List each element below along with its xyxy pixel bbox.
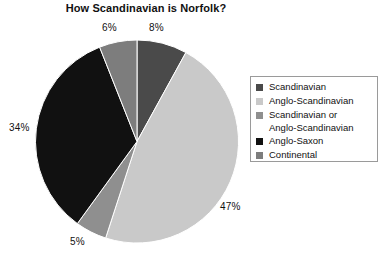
pie-slices: [35, 40, 238, 243]
chart-legend: Scandinavian Anglo-Scandinavian Scandina…: [250, 76, 378, 162]
legend-item-label: Scandinavian or Anglo-Scandinavian: [269, 109, 354, 134]
legend-item-label: Scandinavian: [269, 81, 326, 94]
legend-item-scandinavian-or-anglo-scandinavian[interactable]: Scandinavian or Anglo-Scandinavian: [256, 109, 374, 134]
legend-item-continental[interactable]: Continental: [256, 149, 374, 162]
legend-swatch-icon: [256, 152, 263, 159]
pie-svg: [35, 39, 239, 244]
slice-value-label-scandinavian-or-anglo-scandinavian: 5%: [70, 236, 85, 247]
pie-chart-figure: How Scandinavian is Norfolk? 6% 8% 34% 4…: [0, 0, 384, 257]
legend-swatch-icon: [256, 112, 263, 119]
chart-title: How Scandinavian is Norfolk?: [0, 2, 292, 14]
legend-swatch-icon: [256, 138, 263, 145]
slice-value-label-anglo-scandinavian: 47%: [220, 201, 241, 212]
pie-plot-area: [35, 39, 239, 244]
slice-value-label-anglo-saxon: 34%: [9, 122, 30, 133]
legend-item-scandinavian[interactable]: Scandinavian: [256, 81, 374, 94]
legend-item-label: Continental: [269, 149, 317, 162]
legend-swatch-icon: [256, 84, 263, 91]
legend-item-label: Anglo-Scandinavian: [269, 95, 354, 108]
legend-item-anglo-scandinavian[interactable]: Anglo-Scandinavian: [256, 95, 374, 108]
slice-value-label-continental: 6%: [102, 22, 117, 33]
legend-item-anglo-saxon[interactable]: Anglo-Saxon: [256, 135, 374, 148]
legend-swatch-icon: [256, 98, 263, 105]
legend-item-label: Anglo-Saxon: [269, 135, 323, 148]
slice-value-label-scandinavian: 8%: [149, 22, 164, 33]
